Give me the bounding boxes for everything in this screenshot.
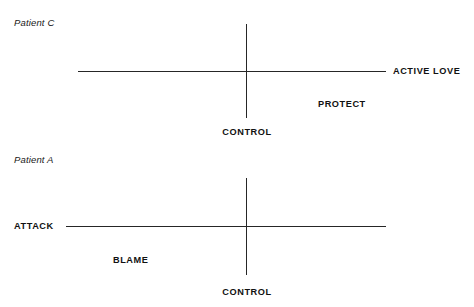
patient-a-horizontal-axis xyxy=(66,226,386,227)
patient-c-panel: Patient C ACTIVE LOVE PROTECT CONTROL xyxy=(0,0,474,150)
patient-a-quadrant-label-blame: BLAME xyxy=(113,255,148,265)
patient-c-quadrant-label-protect: PROTECT xyxy=(318,99,366,109)
patient-a-caption: Patient A xyxy=(14,154,54,165)
patient-a-horizontal-axis-label: ATTACK xyxy=(14,221,54,231)
patient-a-vertical-axis-label: CONTROL xyxy=(222,287,271,297)
patient-c-vertical-axis-label: CONTROL xyxy=(222,127,271,137)
patient-c-caption: Patient C xyxy=(14,17,54,28)
figure-canvas: Patient C ACTIVE LOVE PROTECT CONTROL Pa… xyxy=(0,0,474,307)
patient-c-horizontal-axis xyxy=(78,71,386,72)
patient-c-horizontal-axis-label: ACTIVE LOVE xyxy=(393,66,460,76)
patient-a-panel: Patient A ATTACK BLAME CONTROL xyxy=(0,148,474,307)
